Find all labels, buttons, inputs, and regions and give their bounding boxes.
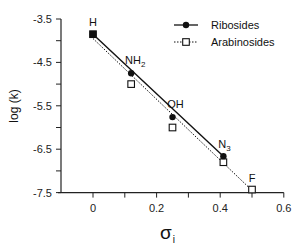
fit-lines [93, 34, 252, 190]
point-label: H [89, 16, 97, 28]
ribosides-point [169, 114, 175, 120]
legend-label-ribosides: Ribosides [211, 19, 260, 31]
legend-marker-arabinosides [183, 39, 190, 46]
legend: RibosidesArabinosides [174, 19, 275, 48]
x-axis-title: σi [160, 222, 175, 245]
y-tick-label: -4.5 [33, 56, 52, 68]
x-tick-label: 0.4 [213, 202, 228, 214]
ribosides-point [220, 153, 226, 159]
arabinosides-point [169, 124, 176, 131]
y-tick-label: -7.5 [33, 187, 52, 199]
y-tick-label: -3.5 [33, 13, 52, 25]
arabinosides-point [128, 81, 135, 88]
log-k-vs-sigma-chart: -3.5-4.5-5.5-6.5-7.500.20.40.6 HNH2OHN3F… [0, 0, 303, 251]
y-tick-label: -6.5 [33, 143, 52, 155]
point-label: N3 [218, 138, 231, 153]
ribosides-fit-line [93, 34, 223, 156]
legend-label-arabinosides: Arabinosides [211, 36, 275, 48]
legend-marker-ribosides [183, 22, 189, 28]
point-label: F [249, 172, 256, 184]
arabinosides-point [220, 159, 227, 166]
x-tick-label: 0.6 [276, 202, 291, 214]
y-axis-title: log (k) [7, 89, 21, 122]
arabinosides-point [249, 186, 256, 193]
x-tick-label: 0.2 [149, 202, 164, 214]
y-tick-label: -5.5 [33, 100, 52, 112]
overlap-point-h [90, 31, 97, 38]
point-label: OH [167, 98, 184, 110]
ribosides-point [128, 70, 134, 76]
x-tick-label: 0 [90, 202, 96, 214]
